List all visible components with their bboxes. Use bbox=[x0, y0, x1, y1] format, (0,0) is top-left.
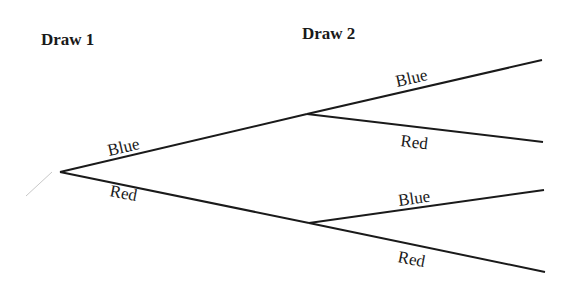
branch-red-red bbox=[309, 223, 545, 272]
heading-draw-2: Draw 2 bbox=[302, 24, 355, 44]
heading-draw-1: Draw 1 bbox=[41, 30, 94, 50]
stray-mark bbox=[26, 172, 52, 196]
label-draw1-blue: Blue bbox=[106, 134, 142, 160]
probability-tree-diagram: Draw 1 Draw 2 Blue Red Blue Red Blue Red bbox=[0, 0, 569, 294]
label-red-red: Red bbox=[396, 247, 427, 271]
label-draw1-red: Red bbox=[108, 181, 139, 205]
branch-draw1-red bbox=[60, 172, 309, 223]
branch-draw1-blue bbox=[60, 114, 307, 172]
label-blue-red: Red bbox=[400, 131, 430, 153]
